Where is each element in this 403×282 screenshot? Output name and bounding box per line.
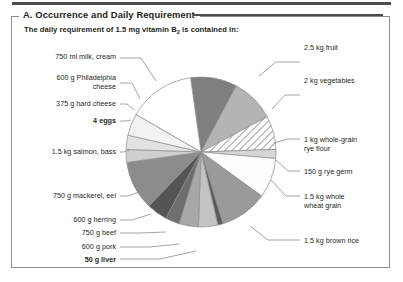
label-vegetables: 2 kg vegetables bbox=[304, 76, 396, 85]
label-whole-wheat-grain: 1.5 kg whole wheat grain bbox=[304, 192, 396, 210]
label-beef: 750 g beef bbox=[8, 228, 116, 237]
label-eggs: 4 eggs bbox=[8, 116, 116, 125]
label-brown-rice: 1.5 kg brown rice bbox=[304, 236, 396, 245]
label-mackerel-eel: 750 g mackerel, eel bbox=[8, 191, 116, 200]
label-hard-cheese: 375 g hard cheese bbox=[8, 99, 116, 108]
label-liver: 50 g liver bbox=[8, 255, 116, 264]
label-herring: 600 g herring bbox=[8, 215, 116, 224]
label-rye-germ: 150 g rye germ bbox=[304, 167, 396, 176]
label-pork: 600 g pork bbox=[8, 242, 116, 251]
label-milk-cream: 750 ml milk, cream bbox=[8, 52, 116, 61]
label-philadelphia-cheese: 600 g Philadelphia cheese bbox=[8, 73, 116, 91]
figure-panel: A. Occurrence and Daily Requirement The … bbox=[0, 0, 403, 282]
label-salmon-bass: 1.5 kg salmon, bass bbox=[8, 147, 116, 156]
pie-slices bbox=[126, 77, 276, 227]
label-fruit: 2.5 kg fruit bbox=[304, 43, 396, 52]
label-rye-flour: 1 kg whole-grain rye flour bbox=[304, 135, 396, 153]
